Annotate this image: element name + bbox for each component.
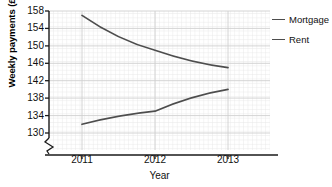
y-tick-label-138: 138 xyxy=(18,93,44,103)
chart-legend: Mortgage Rent xyxy=(272,12,329,52)
x-tick-label-2012: 2012 xyxy=(135,154,175,165)
legend-label-rent: Rent xyxy=(289,34,309,45)
x-tick-label-2011: 2011 xyxy=(62,154,102,165)
y-tick-label-146: 146 xyxy=(18,58,44,68)
y-tick-label-154: 154 xyxy=(18,23,44,33)
y-tick-label-142: 142 xyxy=(18,76,44,86)
legend-line-swatch-icon xyxy=(272,19,285,20)
legend-item-rent[interactable]: Rent xyxy=(272,32,329,47)
line-chart: Weekly payments (£) 158 154 150 146 142 … xyxy=(0,0,332,187)
x-axis-title: Year xyxy=(49,170,270,181)
y-tick-label-134: 134 xyxy=(18,111,44,121)
legend-label-mortgage: Mortgage xyxy=(289,14,329,25)
x-tick-label-2013: 2013 xyxy=(208,154,248,165)
legend-line-swatch-icon xyxy=(272,39,285,40)
y-tick-label-130: 130 xyxy=(18,128,44,138)
y-tick-labels: 158 154 150 146 142 138 134 130 xyxy=(14,0,44,187)
legend-item-mortgage[interactable]: Mortgage xyxy=(272,12,329,27)
y-tick-label-158: 158 xyxy=(18,6,44,16)
y-tick-label-150: 150 xyxy=(18,41,44,51)
